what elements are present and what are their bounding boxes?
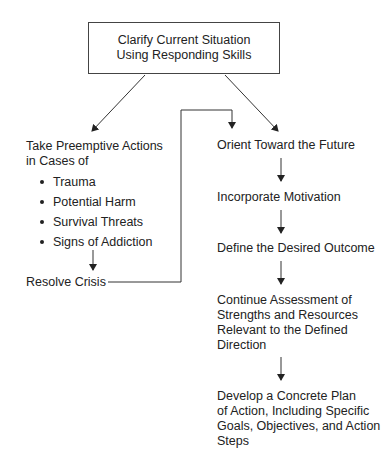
step-line: Steps <box>217 434 380 449</box>
preemptive-heading: Take Preemptive Actions in Cases of <box>26 139 163 169</box>
bullet-text: Potential Harm <box>53 195 136 209</box>
bullet-item: Signs of Addiction <box>40 235 152 250</box>
step-line: Develop a Concrete Plan <box>217 389 380 404</box>
bullet-item: Survival Threats <box>40 215 143 230</box>
bullet-item: Potential Harm <box>40 195 136 210</box>
bullet-text: Trauma <box>53 175 96 189</box>
top-box-line1: Clarify Current Situation <box>118 33 251 48</box>
bullet-icon <box>40 200 44 204</box>
step-orient-future: Orient Toward the Future <box>217 138 355 153</box>
bullet-item: Trauma <box>40 175 96 190</box>
step-line: Orient Toward the Future <box>217 138 355 153</box>
bullet-text: Signs of Addiction <box>53 235 152 249</box>
step-incorporate-motivation: Incorporate Motivation <box>217 190 341 205</box>
preemptive-heading-line2: in Cases of <box>26 154 163 169</box>
bullet-icon <box>40 180 44 184</box>
step-continue-assessment: Continue Assessment of Strengths and Res… <box>217 293 358 353</box>
step-line: Relevant to the Defined <box>217 323 358 338</box>
step-line: Goals, Objectives, and Action <box>217 419 380 434</box>
step-line: of Action, Including Specific <box>217 404 380 419</box>
step-line: Direction <box>217 338 358 353</box>
preemptive-heading-line1: Take Preemptive Actions <box>26 139 163 154</box>
bullet-icon <box>40 220 44 224</box>
bullet-text: Survival Threats <box>53 215 143 229</box>
step-line: Incorporate Motivation <box>217 190 341 205</box>
step-line: Strengths and Resources <box>217 308 358 323</box>
top-box-clarify-situation: Clarify Current Situation Using Respondi… <box>88 22 280 74</box>
top-box-line2: Using Responding Skills <box>117 48 252 63</box>
step-develop-plan: Develop a Concrete Plan of Action, Inclu… <box>217 389 380 449</box>
resolve-crisis: Resolve Crisis <box>26 275 106 290</box>
bullet-icon <box>40 240 44 244</box>
step-line: Continue Assessment of <box>217 293 358 308</box>
step-define-outcome: Define the Desired Outcome <box>217 241 375 256</box>
step-line: Define the Desired Outcome <box>217 241 375 256</box>
